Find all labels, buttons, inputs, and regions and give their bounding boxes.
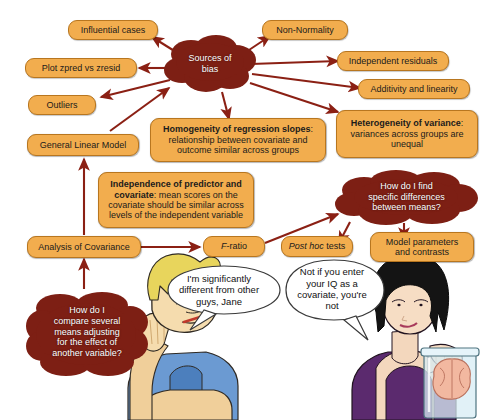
node-independent-residuals-label: Independent residuals <box>342 56 444 66</box>
node-independence-of-predictor-and-covariate[interactable]: Independence of predictor and covariate:… <box>98 172 254 228</box>
node-independent-residuals[interactable]: Independent residuals <box>337 51 449 71</box>
node-homogeneity-of-regression-slopes[interactable]: Homogeneity of regression slopes: relati… <box>150 118 326 162</box>
cloud-compare-means-line4: for the effect of <box>52 337 122 348</box>
node-homogeneity-of-regression-slopes-title: Homogeneity of regression slopes <box>163 124 311 134</box>
cloud-compare-means-line3: means adjusting <box>52 327 122 338</box>
node-post-hoc-tests[interactable]: Post hoc tests <box>281 236 353 257</box>
cloud-sources-of-bias-line2: bias <box>188 64 231 75</box>
node-model-parameters-line2: and contrasts <box>375 247 469 257</box>
node-plot-zpred-vs-zresid-label: Plot zpred vs zresid <box>30 63 132 73</box>
node-heterogeneity-of-variance[interactable]: Heterogeneity of variance: variances acr… <box>336 110 478 158</box>
node-post-hoc-tests-emphasis: Post hoc <box>289 241 324 251</box>
cloud-compare-means-line5: another variable? <box>52 348 122 359</box>
node-f-ratio[interactable]: F-ratio <box>203 236 265 257</box>
node-non-normality[interactable]: Non-Normality <box>262 20 348 40</box>
node-plot-zpred-vs-zresid[interactable]: Plot zpred vs zresid <box>25 58 137 78</box>
node-f-ratio-label: -ratio <box>226 241 247 251</box>
node-model-parameters-line1: Model parameters <box>375 237 469 247</box>
cloud-specific-differences-line3: between means? <box>368 202 444 213</box>
node-general-linear-model-label: General Linear Model <box>32 140 134 150</box>
node-influential-cases-label: Influential cases <box>73 25 153 35</box>
node-analysis-of-covariance-label: Analysis of Covariance <box>32 242 136 252</box>
speech-balloon-female: Not if you enter your IQ as a covariate,… <box>282 258 382 320</box>
speech-balloon-female-line2: your IQ as a <box>297 278 366 289</box>
speech-balloon-male: I'm significantly different from other g… <box>160 264 278 316</box>
node-post-hoc-tests-label: tests <box>324 241 346 251</box>
node-additivity-and-linearity[interactable]: Additivity and linearity <box>358 79 470 99</box>
speech-balloon-male-line3: guys, Jane <box>179 296 259 307</box>
node-non-normality-label: Non-Normality <box>267 25 343 35</box>
node-influential-cases[interactable]: Influential cases <box>68 20 158 40</box>
node-outliers-label: Outliers <box>33 100 91 110</box>
node-general-linear-model[interactable]: General Linear Model <box>27 134 139 156</box>
speech-balloon-male-line2: different from other <box>179 284 259 295</box>
cloud-specific-differences: How do I find specific differences betwe… <box>334 168 479 226</box>
speech-balloon-female-line4: not <box>297 300 366 311</box>
cloud-compare-means: How do I compare several means adjusting… <box>26 288 148 376</box>
concept-map-diagram: Sources of bias How do I find specific d… <box>0 0 496 420</box>
cloud-specific-differences-line2: specific differences <box>368 192 444 203</box>
node-additivity-and-linearity-label: Additivity and linearity <box>363 84 465 94</box>
speech-balloon-male-line1: I'm significantly <box>179 273 259 284</box>
speech-balloon-female-line1: Not if you enter <box>297 266 366 277</box>
cloud-specific-differences-line1: How do I find <box>368 181 444 192</box>
node-heterogeneity-of-variance-title: Heterogeneity of variance <box>351 118 461 128</box>
speech-balloon-female-line3: covariate, you're <box>297 289 366 300</box>
cloud-compare-means-line1: How do I <box>52 305 122 316</box>
node-analysis-of-covariance[interactable]: Analysis of Covariance <box>27 236 141 258</box>
cloud-compare-means-line2: compare several <box>52 316 122 327</box>
cloud-sources-of-bias-line1: Sources of <box>188 53 231 64</box>
cloud-sources-of-bias: Sources of bias <box>160 32 260 96</box>
node-outliers[interactable]: Outliers <box>28 95 96 115</box>
